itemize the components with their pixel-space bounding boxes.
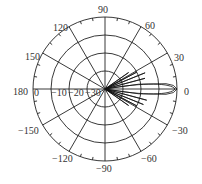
tick-mark [158,43,160,45]
angle-label-30: 30 [174,52,184,63]
angle-label-150: 150 [25,51,40,62]
angle-label-minus30: −30 [172,125,188,136]
tick-mark [80,154,81,157]
tick-mark [80,21,81,24]
tick-mark [50,43,52,45]
radial-label-minus20: −20 [68,87,84,98]
angle-label-minus150: −150 [18,125,39,136]
angle-label-60: 60 [145,20,155,31]
angle-label-minus120: −120 [52,153,73,164]
tick-mark [59,34,61,36]
angle-label-minus90: −90 [96,163,112,174]
tick-mark [170,64,173,65]
tick-mark [129,21,130,24]
tick-mark [34,76,37,77]
tick-mark [34,101,37,102]
tick-mark [170,113,173,114]
tick-mark [117,18,118,21]
tick-mark [158,133,160,135]
tick-mark [149,142,151,144]
tick-mark [59,142,61,144]
radial-label-minus30: −30 [85,87,101,98]
tick-mark [117,157,118,160]
tick-mark [50,133,52,135]
tick-mark [149,34,151,36]
angle-label-90: 90 [98,4,108,15]
tick-mark [37,64,40,65]
radial-label-0: 0 [34,87,39,98]
tick-mark [92,18,93,21]
tick-mark [37,113,40,114]
angle-label-0: 0 [184,86,189,97]
angle-label-minus60: −60 [141,153,157,164]
tick-mark [173,76,176,77]
tick-mark [173,101,176,102]
radial-label-minus10: −10 [51,87,67,98]
tick-mark [92,157,93,160]
angle-label-120: 120 [53,22,68,33]
tick-mark [129,154,130,157]
polar-chart: 90 60 30 0 −30 −60 −90 −120 −150 180 150… [0,0,202,184]
angle-label-180: 180 [13,86,28,97]
